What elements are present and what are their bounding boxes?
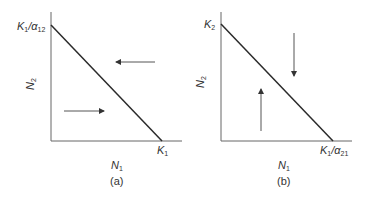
panel-a-isocline <box>51 25 162 141</box>
panel-b-x-intercept-label: K1/α21 <box>320 145 348 157</box>
panel-a-x-intercept-label: K1 <box>157 145 168 157</box>
panel-b-caption: (b) <box>277 176 290 187</box>
panel-a-x-axis-label: N1 <box>111 160 123 172</box>
panel-a-plot <box>51 12 182 141</box>
panel-a-y-axis-label: N2 <box>25 78 37 90</box>
panel-b-y-intercept-label: K2 <box>204 19 215 31</box>
panel-a-caption: (a) <box>110 176 123 187</box>
panel-b-isocline <box>221 24 333 141</box>
isocline-diagrams <box>0 0 366 197</box>
panel-b-x-axis-label: N1 <box>278 160 290 172</box>
panel-b-y-axis-label: N2 <box>195 76 207 88</box>
panel-a-y-intercept-label: K1/α12 <box>17 21 45 33</box>
panel-b-plot <box>221 12 352 141</box>
